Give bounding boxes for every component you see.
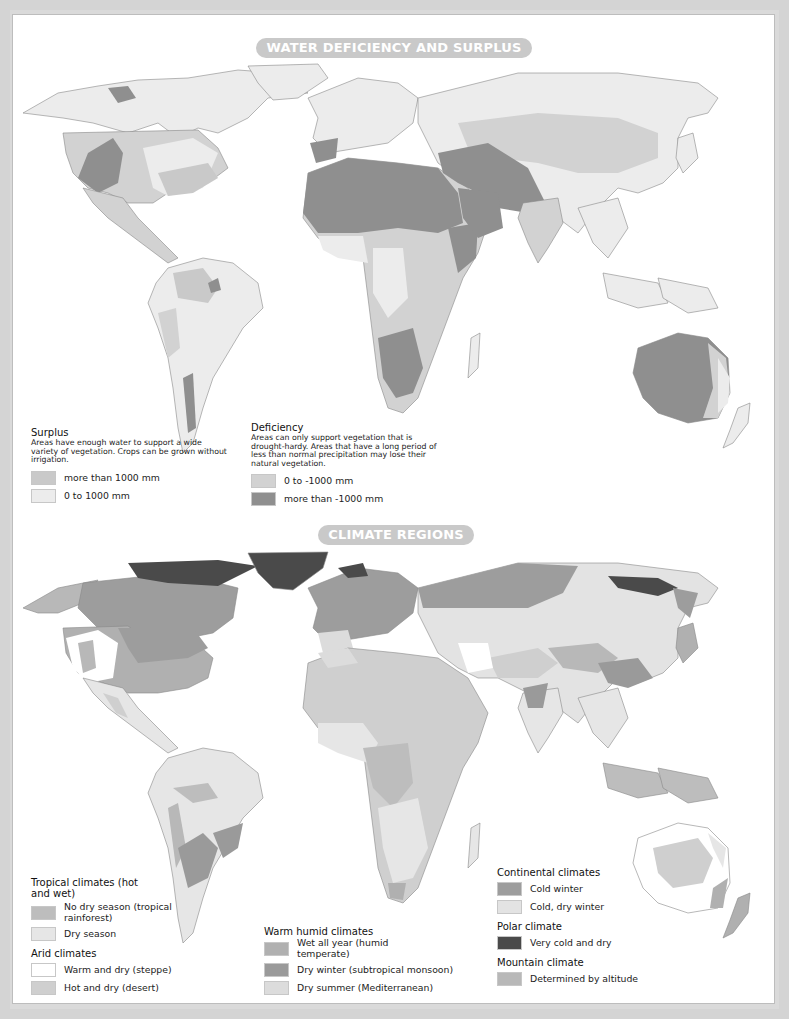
legend-label: Determined by altitude [530, 974, 638, 985]
legend-label: Very cold and dry [530, 938, 612, 949]
legend-label: Dry summer (Mediterranean) [297, 983, 433, 994]
climate-legend-col-3: Continental climates Cold winter Cold, d… [497, 867, 677, 993]
polar-heading: Polar climate [497, 921, 677, 932]
legend-label: No dry season (tropical rainforest) [64, 902, 174, 923]
legend-item-desert: Hot and dry (desert) [31, 981, 241, 995]
legend-item-subtropical-monsoon: Dry winter (subtropical monsoon) [264, 963, 474, 977]
swatch-cold-winter [497, 882, 522, 896]
swatch-cold-dry-winter [497, 900, 522, 914]
water-deficiency-map [18, 58, 778, 458]
mountain-heading: Mountain climate [497, 957, 677, 968]
legend-item-humid-temperate: Wet all year (humid temperate) [264, 938, 474, 959]
tropical-heading: Tropical climates (hot and wet) [31, 877, 141, 899]
polar-climate-group: Polar climate Very cold and dry [497, 921, 677, 950]
swatch-deficiency-low [251, 474, 276, 488]
legend-item-deficiency-high: more than -1000 mm [251, 492, 441, 506]
mountain-climate-group: Mountain climate Determined by altitude [497, 957, 677, 986]
legend-item-cold-dry-winter: Cold, dry winter [497, 900, 677, 914]
swatch-rainforest [31, 906, 56, 920]
legend-item-cold-winter: Cold winter [497, 882, 677, 896]
swatch-mediterranean [264, 981, 289, 995]
swatch-very-cold-dry [497, 936, 522, 950]
swatch-humid-temperate [264, 942, 289, 956]
arid-heading: Arid climates [31, 948, 241, 959]
legend-label: Dry winter (subtropical monsoon) [297, 965, 453, 976]
legend-item-rainforest: No dry season (tropical rainforest) [31, 902, 241, 923]
tropical-climates-group: Tropical climates (hot and wet) No dry s… [31, 877, 241, 941]
arid-climates-group: Arid climates Warm and dry (steppe) Hot … [31, 948, 241, 995]
climate-map-title: CLIMATE REGIONS [318, 525, 474, 545]
legend-label: Cold winter [530, 884, 583, 895]
legend-item-very-cold-dry: Very cold and dry [497, 936, 677, 950]
legend-item-mediterranean: Dry summer (Mediterranean) [264, 981, 474, 995]
deficiency-description: Areas can only support vegetation that i… [251, 434, 441, 468]
legend-label: Wet all year (humid temperate) [297, 938, 397, 959]
legend-label: more than -1000 mm [284, 494, 383, 505]
swatch-steppe [31, 963, 56, 977]
swatch-dry-season [31, 927, 56, 941]
legend-label: 0 to 1000 mm [64, 491, 130, 502]
swatch-surplus-high [31, 471, 56, 485]
legend-item-altitude: Determined by altitude [497, 972, 677, 986]
deficiency-heading: Deficiency [251, 422, 441, 433]
surplus-description: Areas have enough water to support a wid… [31, 439, 231, 465]
surplus-heading: Surplus [31, 427, 231, 438]
climate-legend-col-1: Tropical climates (hot and wet) No dry s… [31, 877, 241, 1002]
legend-item-surplus-low: 0 to 1000 mm [31, 489, 231, 503]
continental-climates-group: Continental climates Cold winter Cold, d… [497, 867, 677, 914]
legend-label: Warm and dry (steppe) [64, 965, 172, 976]
legend-label: more than 1000 mm [64, 473, 160, 484]
swatch-deficiency-high [251, 492, 276, 506]
legend-label: Cold, dry winter [530, 902, 604, 913]
continental-heading: Continental climates [497, 867, 677, 878]
legend-item-dry-season: Dry season [31, 927, 241, 941]
legend-item-deficiency-low: 0 to -1000 mm [251, 474, 441, 488]
legend-item-surplus-high: more than 1000 mm [31, 471, 231, 485]
warm-humid-heading: Warm humid climates [264, 926, 474, 937]
swatch-subtropical-monsoon [264, 963, 289, 977]
deficiency-legend: Deficiency Areas can only support vegeta… [251, 422, 441, 510]
legend-item-steppe: Warm and dry (steppe) [31, 963, 241, 977]
water-map-title: WATER DEFICIENCY AND SURPLUS [256, 38, 532, 58]
swatch-surplus-low [31, 489, 56, 503]
swatch-desert [31, 981, 56, 995]
surplus-legend: Surplus Areas have enough water to suppo… [31, 427, 231, 507]
legend-label: Hot and dry (desert) [64, 983, 159, 994]
climate-legend-col-2: Warm humid climates Wet all year (humid … [264, 926, 474, 999]
swatch-altitude [497, 972, 522, 986]
legend-label: Dry season [64, 929, 116, 940]
legend-label: 0 to -1000 mm [284, 476, 353, 487]
